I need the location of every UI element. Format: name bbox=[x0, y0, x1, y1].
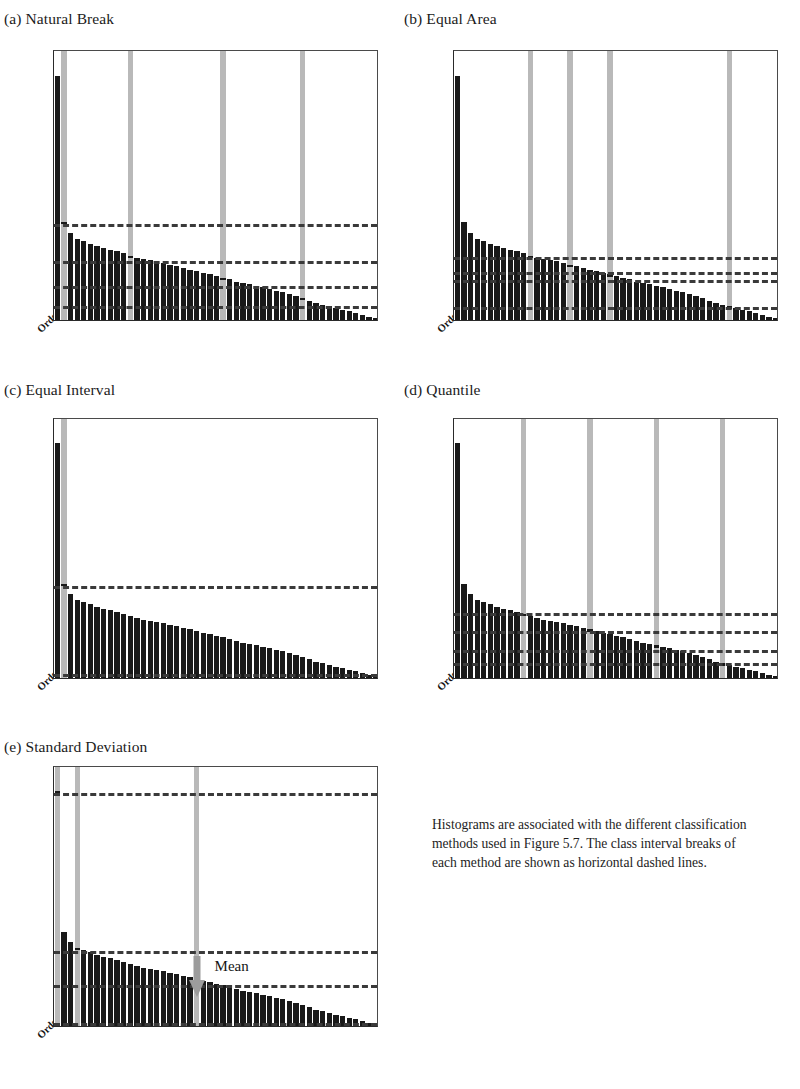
bar bbox=[81, 950, 86, 1026]
bar bbox=[267, 996, 272, 1026]
class-break-line bbox=[454, 272, 777, 275]
bar bbox=[220, 985, 225, 1026]
bar bbox=[101, 957, 106, 1026]
class-break-line bbox=[454, 613, 777, 616]
bar-highlighted bbox=[61, 50, 66, 320]
bar-highlighted bbox=[521, 418, 526, 678]
bar bbox=[134, 966, 139, 1026]
class-break-line bbox=[54, 985, 377, 988]
bar bbox=[260, 995, 265, 1026]
bar-highlight-cap bbox=[300, 298, 305, 301]
class-break-line bbox=[454, 257, 777, 260]
class-break-line bbox=[454, 631, 777, 634]
bar bbox=[274, 998, 279, 1026]
mean-arrow-icon bbox=[188, 956, 206, 1002]
bar bbox=[88, 952, 93, 1026]
bar bbox=[141, 968, 146, 1026]
bar bbox=[108, 958, 113, 1026]
class-break-line bbox=[454, 307, 777, 310]
bar bbox=[207, 982, 212, 1026]
bar bbox=[161, 971, 166, 1026]
bar-highlighted bbox=[587, 418, 592, 678]
bar-highlight-cap bbox=[607, 274, 612, 277]
class-break-line bbox=[54, 951, 377, 954]
bar bbox=[247, 992, 252, 1026]
panel-title-e: (e) Standard Deviation bbox=[4, 738, 147, 756]
bar-highlighted bbox=[128, 50, 133, 320]
bar-highlight-cap bbox=[128, 256, 133, 259]
bar bbox=[167, 973, 172, 1026]
class-break-line bbox=[54, 1023, 377, 1026]
class-break-line bbox=[54, 261, 377, 264]
bar bbox=[214, 984, 219, 1026]
bar bbox=[128, 964, 133, 1026]
bar bbox=[240, 991, 245, 1026]
bar bbox=[174, 974, 179, 1026]
bar bbox=[121, 962, 126, 1026]
x-axis-labels: 2468101214161820222426283032343638404244… bbox=[54, 1026, 377, 1027]
class-break-line bbox=[54, 306, 377, 309]
bar-highlight-cap bbox=[567, 265, 572, 268]
class-break-line bbox=[454, 280, 777, 283]
bar bbox=[61, 932, 66, 1026]
panel-e: (e) Standard DeviationOrderMean0.0050.00… bbox=[0, 0, 800, 1089]
class-break-line bbox=[454, 650, 777, 653]
bar bbox=[181, 976, 186, 1026]
figure-caption: Histograms are associated with the diffe… bbox=[432, 815, 762, 873]
class-break-line bbox=[454, 663, 777, 666]
plot-area-e: Mean0.0050.00100.00150.00200.00250.00300… bbox=[53, 766, 378, 1027]
bar-highlighted bbox=[300, 50, 305, 320]
bar-highlighted bbox=[61, 418, 66, 678]
bar bbox=[114, 960, 119, 1026]
bar bbox=[154, 970, 159, 1026]
bar-highlight-cap bbox=[654, 645, 659, 648]
bar bbox=[94, 955, 99, 1027]
bar-highlighted bbox=[720, 418, 725, 678]
class-break-line bbox=[54, 286, 377, 289]
bar bbox=[254, 993, 259, 1026]
class-break-line bbox=[54, 674, 377, 677]
bar bbox=[148, 969, 153, 1026]
class-break-line bbox=[54, 224, 377, 227]
class-break-line bbox=[54, 793, 377, 796]
bar-highlighted bbox=[654, 418, 659, 678]
bar-highlight-cap bbox=[220, 278, 225, 281]
mean-label: Mean bbox=[215, 958, 249, 975]
bar bbox=[234, 989, 239, 1026]
bar bbox=[227, 987, 232, 1026]
class-break-line bbox=[54, 586, 377, 589]
